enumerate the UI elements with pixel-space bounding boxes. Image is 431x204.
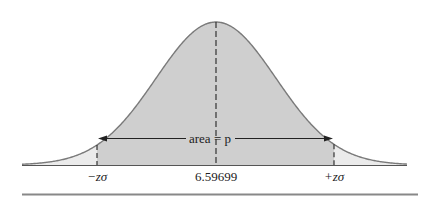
- mean-label: 6.59699: [195, 169, 237, 184]
- area-label: area = p: [189, 131, 231, 146]
- minus-z-sigma-label: −zσ: [87, 169, 108, 184]
- plus-z-sigma-label: +zσ: [324, 169, 345, 184]
- normal-curve-figure: area = p −zσ 6.59699 +zσ: [0, 0, 431, 204]
